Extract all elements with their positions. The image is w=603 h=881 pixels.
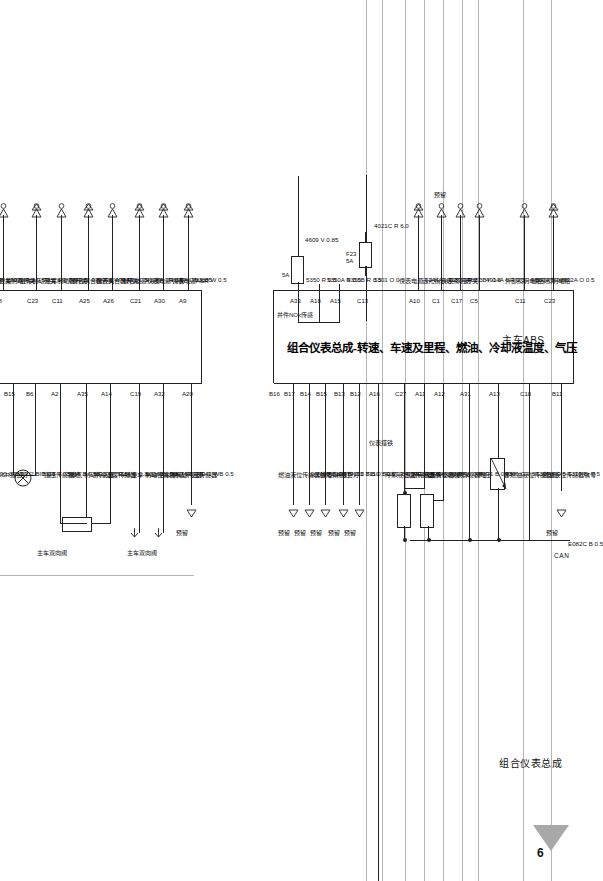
wire xyxy=(359,383,360,505)
feeder-wire-aux xyxy=(298,176,299,256)
branch-note: 主车双向阀 xyxy=(37,548,67,557)
wire xyxy=(13,383,14,475)
wire-branch xyxy=(405,488,425,489)
pin-label: C11 xyxy=(52,297,63,304)
device-enclosure-line xyxy=(0,575,194,576)
wire-branch xyxy=(298,322,340,323)
connector-arrow xyxy=(185,203,194,216)
connector-arrow xyxy=(306,505,315,518)
pin-label: C13 xyxy=(357,297,368,304)
bottom-block-spine-left xyxy=(0,290,202,291)
reserved-note: 预留 xyxy=(434,190,446,199)
wire-tail-note: 预留 xyxy=(176,528,188,537)
can-bus-label: CAN xyxy=(554,552,570,559)
junction-dot xyxy=(497,538,501,542)
junction-dot xyxy=(468,538,472,542)
wire xyxy=(339,284,340,322)
pin-label: C17 xyxy=(451,297,462,304)
wire-name: 手动驻车制动开关 xyxy=(0,276,11,285)
offpage-wire xyxy=(378,548,379,881)
wire-tail-note: 预留 xyxy=(546,528,558,537)
wire xyxy=(298,284,299,322)
pin-label: C5 xyxy=(470,297,478,304)
top-block-cap-bottom xyxy=(273,290,274,383)
fuse-f23 xyxy=(359,242,372,268)
pin-label: B16 xyxy=(269,390,280,397)
fuse-aux-rating: 5A xyxy=(282,272,289,278)
wire-tail-note: 预留 xyxy=(344,528,356,537)
connector-arrow xyxy=(0,203,9,216)
connector-arrow xyxy=(58,203,67,216)
section-label-cluster: 组合仪表总成 xyxy=(499,755,562,770)
fuse-f23-lead xyxy=(365,232,367,242)
wire-code: 7090 G 0.5 xyxy=(0,470,24,477)
pin-label: C23 xyxy=(27,297,38,304)
arrow-head xyxy=(126,528,144,538)
wire xyxy=(319,284,320,322)
wire xyxy=(443,383,444,500)
connector-arrow xyxy=(438,203,447,216)
wire xyxy=(60,383,61,523)
connector-arrow xyxy=(109,203,118,216)
page-marker-number: 6 xyxy=(537,846,544,860)
connector-arrow xyxy=(476,203,485,216)
bottom-block-spine-right xyxy=(0,383,202,384)
top-block-cap-top xyxy=(573,290,574,383)
pin-label: A9 xyxy=(179,297,186,304)
wire-tail-note: 预留 xyxy=(294,528,306,537)
arrow-head xyxy=(150,528,168,538)
wire-code: 5350 R 0.5 xyxy=(306,276,336,283)
wire-name: 燃油液位传感器信号 xyxy=(278,470,332,479)
pin-label: A33 xyxy=(290,297,301,304)
fuse-f23-id: F23 xyxy=(346,251,356,257)
top-block-title: 组合仪表总成-转速、车速及里程、燃油、冷却液温度、气压 xyxy=(287,339,577,355)
connector-arrow xyxy=(457,203,466,216)
connector-arrow xyxy=(160,203,169,216)
wire xyxy=(309,383,310,505)
fuse-aux xyxy=(291,256,304,284)
wire xyxy=(35,383,36,475)
wire-code: 5244A L 0.3 xyxy=(425,276,458,283)
wire-tail-note: 预留 xyxy=(310,528,322,537)
wire xyxy=(86,383,87,517)
can-bus-line xyxy=(410,540,570,541)
feeder-wire-main-label: 4021C R 6.0 xyxy=(374,222,409,229)
wire xyxy=(469,383,470,541)
wire-tail-code: E082C B 0.5 xyxy=(568,540,603,547)
wire xyxy=(498,383,499,458)
wire-tail-note: 预留 xyxy=(328,528,340,537)
wire xyxy=(110,383,111,523)
resistor-symbol xyxy=(420,494,434,528)
junction-dot xyxy=(403,538,407,542)
pin-label: A25 xyxy=(79,297,90,304)
connector-arrow xyxy=(136,203,145,216)
resistor-symbol xyxy=(397,494,411,528)
connector-arrow xyxy=(415,203,424,216)
junction-dot xyxy=(427,538,431,542)
fuse-f23-rating: 5A xyxy=(346,258,353,264)
junction-dot xyxy=(403,491,407,495)
wire xyxy=(163,383,164,533)
connector-arrow xyxy=(550,203,559,216)
pin-label: C21 xyxy=(130,297,141,304)
branch-note: 主车双向阀 xyxy=(127,548,157,557)
wire-name: 仪表搭铁 xyxy=(369,438,393,447)
fuse-f23-lead xyxy=(365,266,367,276)
connector-arrow xyxy=(521,203,530,216)
connector-arrow xyxy=(322,505,331,518)
wire xyxy=(325,383,326,505)
pin-label: B6 xyxy=(26,390,33,397)
wire xyxy=(191,383,192,505)
connector-arrow xyxy=(290,505,299,518)
resistor-symbol xyxy=(62,517,92,532)
pin-label: A26 xyxy=(103,297,114,304)
pin-label: C8 xyxy=(0,297,2,304)
connector-arrow xyxy=(188,505,197,518)
connector-arrow xyxy=(85,203,94,216)
pin-label: A30 xyxy=(154,297,165,304)
wire-branch xyxy=(60,523,87,524)
feeder-wire-aux-label: 4609 V 0.85 xyxy=(305,236,338,243)
wire xyxy=(343,383,344,505)
pin-label: C11 xyxy=(515,297,526,304)
